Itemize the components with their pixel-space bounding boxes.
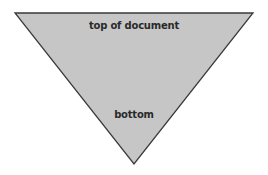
bottom-label: bottom xyxy=(114,109,154,120)
inverted-triangle xyxy=(15,13,253,164)
top-label: top of document xyxy=(89,20,179,31)
